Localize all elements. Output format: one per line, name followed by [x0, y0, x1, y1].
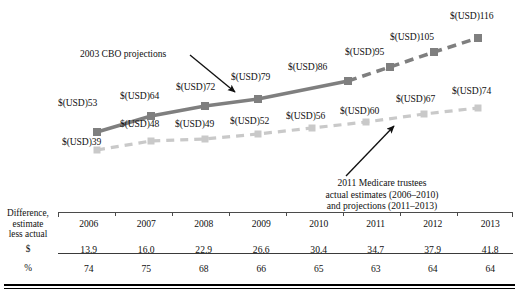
point-label-trustees-2008: $(USD)49 — [175, 118, 214, 129]
row-header-line-3: less actual — [0, 229, 56, 240]
difference-table: Difference, estimate less actual 2006 20… — [0, 208, 519, 278]
point-label-trustees-2006: $(USD)39 — [62, 136, 101, 147]
table-year-2010: 2010 — [290, 208, 348, 240]
point-label-trustees-2013: $(USD)74 — [452, 85, 491, 96]
table-cell-percent-2007: 75 — [118, 260, 176, 278]
table-year-2011: 2011 — [348, 208, 404, 240]
point-label-cbo-2008: $(USD)72 — [176, 81, 215, 92]
table-cell-percent-2010: 65 — [290, 260, 348, 278]
point-label-cbo-2011: $(USD)95 — [345, 46, 384, 57]
table-mid-rule — [58, 253, 513, 254]
table-cell-dollars-2011: 34.7 — [348, 240, 404, 260]
series-cbo-line-dashed — [348, 38, 478, 81]
table-row-label-percent: % — [0, 260, 60, 278]
point-label-trustees-2007: $(USD)48 — [120, 118, 159, 129]
table-cell-dollars-2013: 41.8 — [461, 240, 519, 260]
table-cell-percent-2008: 68 — [175, 260, 233, 278]
table-row-percent: % 74 75 68 66 65 63 64 64 — [0, 260, 519, 278]
table-cell-percent-2009: 66 — [233, 260, 291, 278]
table-row-label-dollars: $ — [0, 240, 60, 260]
figure-bottom-rule-thin — [4, 288, 515, 289]
table-cell-dollars-2008: 22.9 — [175, 240, 233, 260]
table-row-dollars: $ 13.9 16.0 22.9 26.6 30.4 34.7 37.9 41.… — [0, 240, 519, 260]
table-cell-dollars-2012: 37.9 — [404, 240, 462, 260]
table-year-2007: 2007 — [118, 208, 176, 240]
table-year-2006: 2006 — [60, 208, 118, 240]
table-year-2013: 2013 — [461, 208, 519, 240]
point-label-cbo-2007: $(USD)64 — [120, 90, 159, 101]
table-cell-percent-2006: 74 — [60, 260, 118, 278]
point-label-cbo-2009: $(USD)79 — [231, 71, 270, 82]
table-year-2008: 2008 — [175, 208, 233, 240]
table-cell-percent-2012: 64 — [404, 260, 462, 278]
point-label-trustees-2012: $(USD)67 — [396, 93, 435, 104]
cbo-annotation-text: 2003 CBO projections — [80, 48, 166, 60]
point-label-trustees-2010: $(USD)56 — [286, 110, 325, 121]
table-row-years: Difference, estimate less actual 2006 20… — [0, 208, 519, 240]
figure-bottom-rule-thick — [4, 284, 515, 286]
trustees-annotation-line-2: actual estimates (2006–2010) — [287, 189, 477, 201]
table-cell-percent-2013: 64 — [461, 260, 519, 278]
table-cell-dollars-2006: 13.9 — [60, 240, 118, 260]
table-cell-percent-2011: 63 — [348, 260, 404, 278]
table-year-2012: 2012 — [404, 208, 462, 240]
point-label-cbo-2012: $(USD)105 — [390, 31, 434, 42]
figure-container: $(USD)53 $(USD)64 $(USD)72 $(USD)79 $(US… — [0, 0, 519, 298]
point-label-cbo-2010: $(USD)86 — [288, 61, 327, 72]
chart-area: $(USD)53 $(USD)64 $(USD)72 $(USD)79 $(US… — [0, 0, 519, 208]
row-header-line-2: estimate — [0, 219, 56, 230]
trustees-annotation-arrow — [346, 126, 394, 176]
trustees-annotation-text: 2011 Medicare trustees actual estimates … — [287, 177, 477, 212]
table-row-header: Difference, estimate less actual — [0, 208, 60, 240]
row-header-line-1: Difference, — [0, 208, 56, 219]
trustees-annotation-line-1: 2011 Medicare trustees — [287, 177, 477, 189]
point-label-trustees-2011: $(USD)60 — [340, 105, 379, 116]
point-label-trustees-2009: $(USD)52 — [230, 115, 269, 126]
difference-table-area: Difference, estimate less actual 2006 20… — [0, 208, 519, 298]
table-cell-dollars-2007: 16.0 — [118, 240, 176, 260]
table-cell-dollars-2009: 26.6 — [233, 240, 291, 260]
point-label-cbo-2013: $(USD)116 — [450, 10, 494, 21]
point-label-cbo-2006: $(USD)53 — [58, 97, 97, 108]
table-year-2009: 2009 — [233, 208, 291, 240]
table-cell-dollars-2010: 30.4 — [290, 240, 348, 260]
